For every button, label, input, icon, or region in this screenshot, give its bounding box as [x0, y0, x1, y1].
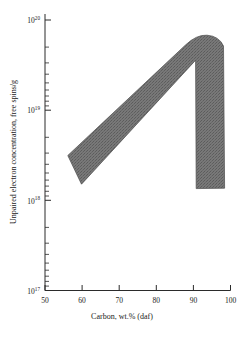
x-tick-label-50: 50: [41, 296, 49, 305]
y-tick-exp-18: 18: [35, 195, 41, 201]
chart-svg: 1020 1019 1018 1017 50 60 70 80 90 100 C…: [0, 0, 245, 339]
x-tick-label-70: 70: [115, 296, 123, 305]
figure-container: 1020 1019 1018 1017 50 60 70 80 90 100 C…: [0, 0, 245, 339]
y-tick-exp-17: 17: [35, 286, 41, 292]
x-axis-tick-labels: 50 60 70 80 90 100: [41, 296, 236, 305]
x-axis-title: Carbon, wt.% (daf): [91, 312, 153, 321]
y-tick-label-1e18: 1018: [27, 195, 40, 205]
y-axis-title: Unpaired electron concentration, free sp…: [9, 80, 18, 224]
y-tick-label-1e20: 1020: [27, 15, 40, 25]
x-tick-label-60: 60: [78, 296, 86, 305]
x-tick-label-100: 100: [225, 296, 237, 305]
y-tick-label-1e19: 1019: [27, 105, 40, 115]
y-tick-exp-19: 19: [35, 105, 41, 111]
y-tick-label-1e17: 1017: [27, 286, 40, 296]
y-tick-exp-20: 20: [35, 15, 41, 21]
y-axis-tick-labels: 1020 1019 1018 1017: [27, 15, 40, 296]
x-tick-label-90: 90: [190, 296, 198, 305]
x-tick-label-80: 80: [153, 296, 161, 305]
